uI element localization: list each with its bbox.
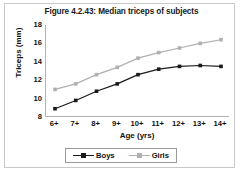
series-line-girls xyxy=(55,40,221,90)
legend-label: Girls xyxy=(152,151,169,160)
x-tick-10plus: 10+ xyxy=(131,120,144,128)
data-point xyxy=(136,56,140,60)
y-tick-14: 14 xyxy=(24,58,42,66)
data-point xyxy=(95,89,99,93)
x-tick-11plus: 11+ xyxy=(152,120,164,128)
x-axis-label: Age (yrs) xyxy=(45,131,229,140)
data-point xyxy=(178,65,182,69)
data-point xyxy=(219,65,223,69)
x-axis-tick-labels: 6+7+8+9+10+11+12+13+14+ xyxy=(45,119,229,131)
data-point xyxy=(53,88,57,92)
data-point xyxy=(157,51,161,55)
x-tick-13plus: 13+ xyxy=(193,120,206,128)
y-tick-16: 16 xyxy=(24,40,42,48)
x-tick-9plus: 9+ xyxy=(112,120,121,128)
data-point xyxy=(115,82,119,86)
legend-item-girls: Girls xyxy=(129,151,169,160)
data-point xyxy=(74,82,78,86)
data-point xyxy=(136,73,140,77)
x-tick-14plus: 14+ xyxy=(214,120,227,128)
data-point xyxy=(115,66,119,70)
data-point xyxy=(198,42,202,46)
chart-title: Figure 4.2.43: Median triceps of subject… xyxy=(14,7,229,16)
y-tick-10: 10 xyxy=(24,95,42,103)
series-girls xyxy=(53,38,223,91)
legend-square-marker-icon xyxy=(137,153,142,158)
figure-root: Figure 4.2.43: Median triceps of subject… xyxy=(0,0,240,173)
x-tick-6plus: 6+ xyxy=(50,120,59,128)
y-axis-tick-labels: 81012141618 xyxy=(24,24,42,118)
data-point xyxy=(198,64,202,68)
series-line-boys xyxy=(55,65,221,108)
y-tick-8: 8 xyxy=(24,113,42,121)
x-tick-12plus: 12+ xyxy=(172,120,185,128)
series-plot xyxy=(46,25,230,117)
legend-item-boys: Boys xyxy=(73,151,115,160)
x-tick-7plus: 7+ xyxy=(70,120,79,128)
y-tick-12: 12 xyxy=(24,76,42,84)
plot-area xyxy=(45,25,229,117)
legend-label: Boys xyxy=(96,151,115,160)
data-point xyxy=(219,38,223,42)
legend-square-marker-icon xyxy=(81,153,86,158)
data-point xyxy=(157,67,161,71)
y-tick-18: 18 xyxy=(24,21,42,29)
data-point xyxy=(178,46,182,50)
series-boys xyxy=(53,64,223,111)
chart-legend: BoysGirls xyxy=(65,148,177,163)
x-tick-8plus: 8+ xyxy=(91,120,100,128)
data-point xyxy=(53,107,57,111)
data-point xyxy=(74,99,78,103)
legend-swatch-girls xyxy=(129,152,150,159)
data-point xyxy=(95,73,99,77)
legend-swatch-boys xyxy=(73,152,94,159)
y-axis-label: Triceps (mm) xyxy=(14,21,23,85)
